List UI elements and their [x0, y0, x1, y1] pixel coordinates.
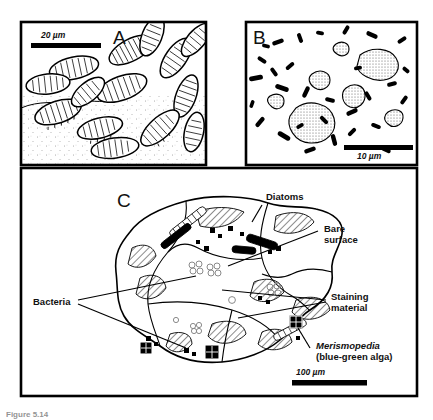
- label-bare-surface-line2: surface: [324, 235, 358, 246]
- label-bare-surface: Bare surface: [324, 224, 358, 245]
- label-merismopedia: Merismopedia (blue-green alga): [316, 341, 393, 362]
- panel-c-scale-bar: [292, 380, 367, 386]
- panel-b-artwork: [246, 22, 417, 165]
- panel-c-scale-label: 100 µm: [296, 367, 325, 377]
- panel-b-scale-bar: [344, 145, 413, 150]
- panel-c-artwork: [78, 197, 342, 363]
- label-bare-surface-line1: Bare: [324, 224, 358, 235]
- figure-container: A B C 20 µm 10 µm 100 µm Diatoms Bare su…: [0, 0, 433, 420]
- figure-caption: Figure 5.14: [6, 410, 48, 419]
- label-merismopedia-genus: Merismopedia: [316, 341, 393, 352]
- panel-b-scale-label: 10 µm: [357, 151, 381, 161]
- panel-a-scale-label: 20 µm: [41, 30, 65, 40]
- label-bacteria: Bacteria: [33, 297, 71, 308]
- label-staining-material: Staining material: [331, 292, 368, 313]
- panel-a-scale-bar: [31, 43, 101, 48]
- label-staining-line2: material: [331, 303, 368, 314]
- label-staining-line1: Staining: [331, 292, 368, 303]
- label-diatoms: Diatoms: [266, 192, 303, 203]
- panel-b-letter: B: [253, 27, 266, 49]
- panel-c-letter: C: [117, 190, 131, 212]
- panel-a-letter: A: [113, 27, 126, 49]
- label-merismopedia-common: (blue-green alga): [316, 352, 393, 363]
